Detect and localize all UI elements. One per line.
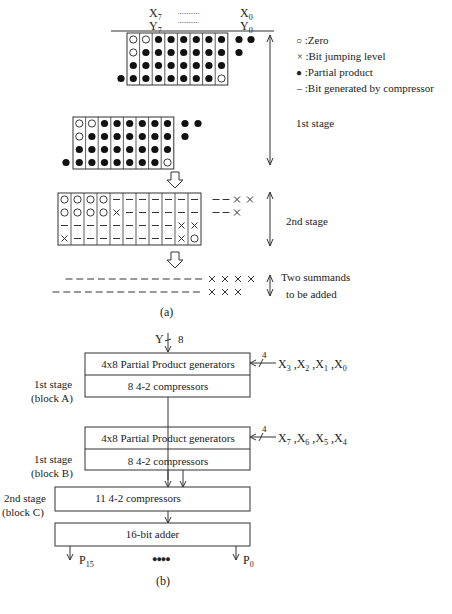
legend-item-bit-jumping: × :Bit jumping level [297,50,385,62]
block-a-side-label-2: (block A) [31,392,73,404]
partial-product-dot-icon [151,159,158,166]
partial-product-dot-icon [130,75,137,82]
partial-product-dot-icon [168,75,175,82]
zero-circle-icon [74,209,81,216]
partial-product-dot-icon [126,120,133,127]
partial-product-dot-icon [168,62,175,69]
block-a-bus-width: 4 [262,350,267,360]
partial-product-dot-icon [205,75,212,82]
partial-product-dot-icon [205,36,212,43]
partial-product-dot-icon [114,120,121,127]
partial-product-dot-icon [142,49,149,56]
adder-label: 16-bit adder [55,528,250,540]
partial-product-dot-icon [88,159,95,166]
y-input-label: Y [155,332,164,347]
partial-product-dot-icon [139,146,146,153]
zero-circle-icon [142,36,149,43]
partial-product-dot-icon [155,75,162,82]
block-c-compressors: 11 4-2 compressors [55,492,221,504]
legend-item-zero: ○ :Zero [296,34,329,46]
first-stage-label: 1st stage [296,117,334,129]
zero-circle-icon [76,120,83,127]
zero-circle-icon [74,196,81,203]
partial-product-dot-icon [101,146,108,153]
zero-circle-icon [87,196,94,203]
output-msb-label: P15 [79,553,94,569]
partial-product-dot-icon [218,36,225,43]
partial-product-dot-icon [114,159,121,166]
partial-product-dot-icon [142,75,149,82]
partial-product-dot-icon [168,36,175,43]
y-bus-width: 8 [178,333,184,345]
partial-product-dot-icon [101,120,108,127]
zero-circle-icon [87,209,94,216]
partial-product-dot-icon [151,133,158,140]
partial-product-dot-icon [205,62,212,69]
zero-circle-icon [130,36,137,43]
stage-transition-arrow-1 [167,172,183,188]
block-c-side-label-2: (block C) [2,506,44,518]
cross-icon: × [297,51,303,62]
zero-circle-icon [100,196,107,203]
output-lsb-label: P0 [243,553,254,569]
partial-product-dot-icon [247,36,254,43]
partial-product-dot-icon [117,75,124,82]
block-b-compressors: 8 4-2 compressors [85,455,251,467]
partial-product-dot-icon [205,49,212,56]
partial-product-dot-icon [101,159,108,166]
partial-product-dot-icon [76,146,83,153]
zero-circle-icon [61,209,68,216]
partial-product-dot-icon [193,36,200,43]
zero-circle-icon [130,49,137,56]
partial-product-dot-icon [130,62,137,69]
zero-circle-icon [88,120,95,127]
partial-product-dot-icon [126,146,133,153]
filled-dot-icon: ● [296,67,302,78]
block-a-pp-generators: 4x8 Partial Product generators [85,358,251,370]
partial-product-dot-icon [181,133,188,140]
y-msb-label: Y7 [149,19,162,35]
partial-product-dot-icon [194,120,201,127]
block-b-bus-width: 4 [262,424,267,434]
legend-item-partial-product: ● :Partial product [296,66,373,78]
caption-b: (b) [156,574,170,589]
dash-icon: – [297,83,302,94]
partial-product-dot-icon [218,49,225,56]
partial-product-dot-icon [180,75,187,82]
partial-product-dot-icon [218,62,225,69]
partial-product-dot-icon [114,146,121,153]
partial-product-dot-icon [114,133,121,140]
partial-product-dot-icon [168,49,175,56]
zero-circle-icon [191,235,198,242]
block-a-side-label-1: 1st stage [34,378,72,390]
zero-circle-icon [100,209,107,216]
partial-product-dot-icon [126,159,133,166]
block-a-compressors: 8 4-2 compressors [85,380,251,392]
partial-product-dot-icon [235,49,242,56]
block-a-x-inputs: X3 ,X2 ,X1 ,X0 [278,357,347,373]
header-ellipsis-2: ............ [178,17,199,25]
partial-product-dot-icon [193,75,200,82]
partial-product-dot-icon [164,133,171,140]
zero-circle-icon [164,159,171,166]
zero-circle-icon [218,75,225,82]
summands-label-line2: to be added [286,288,337,300]
legend-item-compressor-bit: – :Bit generated by compressor [297,82,434,94]
block-b-side-label-2: (block B) [31,467,73,479]
partial-product-dot-icon [151,120,158,127]
caption-a: (a) [160,305,173,320]
partial-product-dot-icon [88,146,95,153]
partial-product-dot-icon [101,133,108,140]
zero-circle-icon: ○ [296,35,302,46]
partial-product-dot-icon [235,36,242,43]
partial-product-dot-icon [88,133,95,140]
partial-product-dot-icon [180,49,187,56]
partial-product-dot-icon [164,146,171,153]
partial-product-dot-icon [155,49,162,56]
partial-product-dot-icon [62,159,69,166]
block-b-side-label-1: 1st stage [34,453,72,465]
partial-product-dot-icon [139,120,146,127]
partial-product-dot-icon [155,36,162,43]
partial-product-dot-icon [126,133,133,140]
partial-product-dot-icon [193,62,200,69]
